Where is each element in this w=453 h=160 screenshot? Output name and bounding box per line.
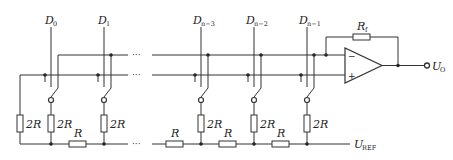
input-label-d1: D 1 [97, 14, 110, 28]
control-lines [51, 27, 307, 87]
shunt-resistors [17, 75, 310, 144]
switch-dn-3 [199, 88, 209, 103]
label-2r-5: 2R [312, 118, 328, 131]
opamp-plus: + [348, 71, 356, 81]
svg-text:f: f [365, 26, 368, 34]
switch-dn-1 [305, 88, 315, 103]
switch-dn-2 [252, 88, 262, 103]
label-2r-0: 2R [25, 118, 41, 131]
ellipsis-top: ··· [132, 50, 141, 60]
ladder-bottom [20, 141, 350, 147]
label-r-0: R [73, 127, 82, 140]
opamp: − + [345, 48, 382, 83]
r2r-dac-circuit: D 0 D 1 D n−3 D n−2 D n−1 [0, 0, 453, 160]
svg-text:REF: REF [362, 144, 377, 152]
svg-text:1: 1 [106, 20, 110, 28]
svg-text:R: R [356, 20, 365, 33]
label-2r-4: 2R [259, 118, 275, 131]
output-node [382, 63, 430, 68]
reference-voltage-label: U REF [354, 138, 377, 152]
label-r-1: R [170, 127, 179, 140]
label-2r-1: 2R [56, 118, 72, 131]
switch-d1 [102, 88, 112, 103]
svg-text:0: 0 [53, 20, 57, 28]
svg-text:n−3: n−3 [201, 20, 215, 28]
svg-text:O: O [440, 66, 445, 74]
input-label-dn-2: D n−2 [245, 14, 268, 28]
label-r-3: R [276, 127, 285, 140]
label-2r-2: 2R [109, 118, 125, 131]
label-r-2: R [223, 127, 232, 140]
label-2r-3: 2R [206, 118, 222, 131]
feedback-resistor-label: R f [356, 20, 368, 34]
input-label-dn-1: D n−1 [298, 14, 321, 28]
switch-d0 [49, 88, 59, 103]
ellipsis-bottom: ··· [132, 139, 141, 149]
svg-text:n−1: n−1 [307, 20, 321, 28]
output-voltage-label: U O [432, 60, 445, 74]
opamp-minus: − [348, 51, 356, 61]
noninverting-bus [20, 73, 345, 82]
input-label-d0: D 0 [44, 14, 57, 28]
ellipsis-middle: ··· [132, 70, 141, 80]
switches [49, 88, 315, 103]
input-label-dn-3: D n−3 [192, 14, 215, 28]
svg-text:n−2: n−2 [254, 20, 268, 28]
